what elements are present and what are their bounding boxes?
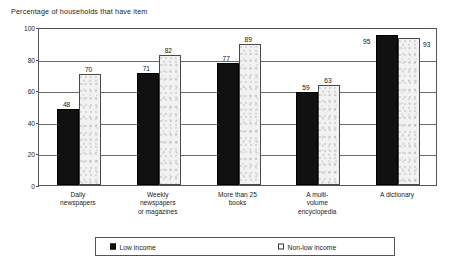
bar-value-label: 59: [302, 85, 309, 92]
bar-value-label: 77: [223, 56, 230, 63]
category-label-line: Daily: [38, 191, 118, 199]
y-axis: 020406080100: [14, 28, 35, 186]
bar-low-income: [376, 35, 398, 185]
bar-value-label: 70: [85, 67, 92, 74]
plot-area: 48707182778959639593: [38, 28, 437, 186]
bar-low-income: [217, 63, 239, 185]
bar-value-label: 89: [245, 37, 252, 44]
category-label-line: newspapers: [38, 199, 118, 207]
legend-swatch-non-low-income: [278, 244, 284, 250]
y-axis-tick-label: 80: [28, 56, 35, 63]
bar-low-income: [57, 109, 79, 185]
category-label: A multi-volumeencyclopedia: [277, 191, 357, 216]
category-label: A dictionary: [357, 191, 437, 199]
category-label-line: or magazines: [118, 208, 198, 216]
y-axis-tick-label: 40: [28, 119, 35, 126]
bar-non-low-income: [318, 85, 340, 185]
y-axis-tick-mark: [36, 186, 40, 187]
legend-entry-low-income: Low income: [110, 243, 156, 250]
category-label-line: books: [198, 199, 278, 207]
bar-value-label: 93: [423, 42, 430, 49]
bar-non-low-income: [239, 44, 261, 185]
category-label: Weeklynewspapersor magazines: [118, 191, 198, 216]
legend-swatch-low-income: [110, 244, 116, 250]
bar-non-low-income: [79, 74, 101, 185]
bar-low-income: [137, 73, 159, 185]
bar-non-low-income: [159, 55, 181, 185]
category-label-line: Weekly: [118, 191, 198, 199]
category-label: More than 25books: [198, 191, 278, 208]
chart-legend: Low income Non-low income: [95, 237, 395, 256]
y-axis-tick-label: 60: [28, 88, 35, 95]
y-axis-tick-label: 100: [24, 25, 35, 32]
category-label-line: encyclopedia: [277, 208, 357, 216]
bar-chart: Percentage of households that have item …: [0, 0, 453, 279]
y-axis-tick-label: 0: [31, 183, 35, 190]
chart-title: Percentage of households that have item: [11, 7, 148, 16]
bar-low-income: [296, 92, 318, 185]
category-label-line: A multi-: [277, 191, 357, 199]
bar-value-label: 71: [143, 66, 150, 73]
bar-value-label: 63: [324, 78, 331, 85]
category-label-line: newspapers: [118, 199, 198, 207]
bar-non-low-income: [398, 38, 420, 185]
legend-label-low-income: Low income: [120, 243, 156, 250]
category-label-line: More than 25: [198, 191, 278, 199]
bar-value-label: 95: [363, 39, 370, 46]
bar-value-label: 82: [165, 48, 172, 55]
category-label-line: volume: [277, 199, 357, 207]
legend-entry-non-low-income: Non-low income: [278, 243, 336, 250]
legend-label-non-low-income: Non-low income: [288, 243, 337, 250]
category-label: Dailynewspapers: [38, 191, 118, 208]
category-label-line: A dictionary: [357, 191, 437, 199]
y-axis-tick-label: 20: [28, 151, 35, 158]
bar-value-label: 48: [63, 102, 70, 109]
